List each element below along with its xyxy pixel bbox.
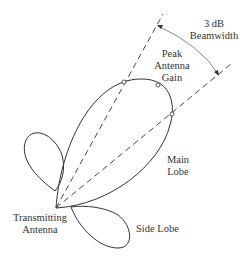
- peak-gain-label: Peak Antenna Gain: [150, 48, 194, 84]
- tx-label-line2: Antenna: [8, 224, 72, 236]
- peak-label-line2: Antenna: [150, 60, 194, 72]
- side-lobe-label: Side Lobe: [136, 223, 179, 235]
- back-lobe: [24, 133, 63, 191]
- half-power-point-lower: [170, 112, 174, 116]
- main-lobe: [56, 79, 172, 208]
- tx-label-line1: Transmitting: [8, 212, 72, 224]
- main-label-line1: Main: [160, 154, 196, 166]
- main-lobe-label: Main Lobe: [160, 154, 196, 178]
- beamwidth-label-line1: 3 dB: [184, 18, 244, 30]
- half-power-point-upper: [122, 80, 126, 84]
- beamwidth-label: 3 dB Beamwidth: [184, 18, 244, 42]
- side-lobe: [71, 206, 130, 248]
- arrow-head-lower: [214, 70, 219, 76]
- peak-label-line1: Peak: [150, 48, 194, 60]
- transmitting-antenna-label: Transmitting Antenna: [8, 212, 72, 236]
- peak-label-line3: Gain: [150, 72, 194, 84]
- main-label-line2: Lobe: [160, 166, 196, 178]
- beam-edge-line-upper: [56, 14, 163, 208]
- beamwidth-label-line2: Beamwidth: [184, 30, 244, 42]
- beam-edge-line-lower: [56, 64, 231, 208]
